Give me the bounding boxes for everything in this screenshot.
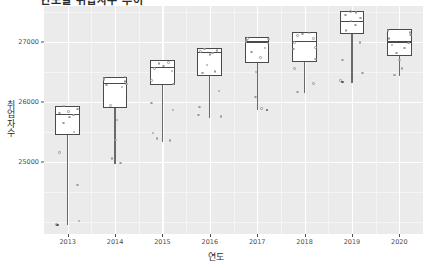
x-tick-label: 2019 [344, 238, 361, 246]
boxplot-data-point [169, 139, 172, 142]
boxplot-data-point [67, 110, 70, 113]
boxplot-data-point [314, 46, 317, 49]
boxplot-data-point [199, 50, 202, 53]
boxplot-data-point [211, 52, 214, 55]
boxplot-data-point [259, 56, 262, 59]
boxplot-data-point [58, 112, 61, 115]
y-axis-title-char: 수 [4, 129, 18, 138]
y-tick-mark [41, 42, 44, 43]
boxplot-data-point [401, 67, 404, 70]
x-tick-mark [305, 234, 306, 237]
gridline-minor-vertical [139, 6, 140, 234]
boxplot-data-point [341, 59, 344, 62]
boxplot-data-point [409, 34, 412, 37]
boxplot-data-point [76, 184, 79, 187]
x-tick-mark [115, 234, 116, 237]
boxplot-data-point [150, 102, 153, 105]
boxplot-data-point [245, 40, 248, 43]
x-tick-label: 2015 [154, 238, 171, 246]
boxplot-data-point [359, 17, 362, 20]
boxplot-data-point [344, 14, 347, 17]
boxplot-data-point [167, 61, 170, 64]
gridline-minor-vertical [281, 6, 282, 234]
boxplot-data-point [198, 106, 201, 109]
boxplot-data-point [114, 139, 117, 142]
x-tick-label: 2018 [296, 238, 313, 246]
gridline-minor-vertical [328, 6, 329, 234]
gridline-minor-vertical [376, 6, 377, 234]
boxplot-data-point [58, 151, 61, 154]
boxplot-data-point [209, 53, 212, 56]
gridline-minor-vertical [91, 6, 92, 234]
boxplot-outlier-point [266, 109, 269, 112]
boxplot-data-point [296, 91, 299, 94]
boxplot-data-point [68, 116, 71, 119]
plot-panel [44, 6, 423, 234]
boxplot-data-point [312, 37, 315, 40]
y-tick-label: 25000 [18, 158, 39, 166]
boxplot-data-point [214, 70, 217, 73]
x-tick-mark [210, 234, 211, 237]
y-tick-mark [41, 162, 44, 163]
boxplot-data-point [220, 115, 223, 118]
boxplot-data-point [296, 34, 299, 37]
x-tick-label: 2017 [249, 238, 266, 246]
boxplot-data-point [116, 119, 119, 122]
boxplot-data-point [293, 67, 296, 70]
x-tick-label: 2013 [59, 238, 76, 246]
boxplot-box [150, 60, 175, 85]
boxplot-data-point [359, 41, 362, 44]
y-axis-title: 취업자수 [4, 101, 18, 138]
boxplot-data-point [197, 114, 200, 117]
boxplot-outlier-point [341, 81, 344, 84]
boxplot-median-line [292, 41, 317, 42]
boxplot-data-point [361, 72, 364, 75]
boxplot-data-point [109, 104, 112, 107]
boxplot-data-point [218, 90, 221, 93]
gridline-minor-vertical [186, 6, 187, 234]
boxplot-data-point [172, 109, 175, 112]
y-tick-mark [41, 102, 44, 103]
x-tick-mark [352, 234, 353, 237]
boxplot-data-point [246, 37, 249, 40]
boxplot-data-point [393, 74, 396, 77]
x-tick-mark [162, 234, 163, 237]
y-tick-label: 26000 [18, 98, 39, 106]
boxplot-data-point [62, 122, 65, 125]
x-tick-label: 2016 [202, 238, 219, 246]
boxplot-data-point [260, 107, 263, 110]
gridline-major-vertical [210, 6, 211, 234]
x-tick-mark [257, 234, 258, 237]
boxplot-data-point [293, 41, 296, 44]
boxplot-data-point [403, 47, 406, 50]
boxplot-data-point [388, 37, 391, 40]
boxplot-data-point [150, 79, 153, 82]
boxplot-data-point [395, 52, 398, 55]
boxplot-data-point [119, 162, 122, 165]
boxplot-chart: 연도별 취업자수 추이 취업자수 250002600027000 2013201… [0, 0, 431, 268]
x-tick-label: 2014 [107, 238, 124, 246]
boxplot-data-point [398, 59, 401, 62]
x-axis-title: 연도 [0, 250, 431, 263]
boxplot-data-point [345, 29, 348, 32]
gridline-minor-vertical [234, 6, 235, 234]
boxplot-data-point [111, 157, 114, 160]
y-tick-label: 27000 [18, 38, 39, 46]
boxplot-data-point [314, 58, 317, 61]
x-tick-mark [399, 234, 400, 237]
boxplot-outlier-point [56, 224, 59, 227]
boxplot-data-point [158, 62, 161, 65]
boxplot-data-point [312, 82, 315, 85]
boxplot-data-point [153, 67, 156, 70]
x-tick-label: 2020 [391, 238, 408, 246]
boxplot-data-point [349, 10, 352, 13]
x-tick-mark [68, 234, 69, 237]
boxplot-data-point [156, 137, 159, 140]
boxplot-median-line [245, 41, 270, 42]
